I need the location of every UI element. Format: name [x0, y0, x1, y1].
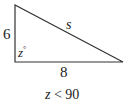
hypotenuse-label: s	[66, 18, 71, 32]
degree-symbol: °	[23, 45, 26, 54]
vertical-side-label: 6	[3, 27, 11, 42]
angle-label: z°	[18, 46, 26, 59]
condition-value: 90	[65, 87, 79, 102]
triangle	[15, 5, 123, 62]
horizontal-side-label: 8	[60, 65, 68, 80]
condition-text: z < 90	[45, 88, 79, 102]
condition-operator: <	[50, 87, 65, 102]
